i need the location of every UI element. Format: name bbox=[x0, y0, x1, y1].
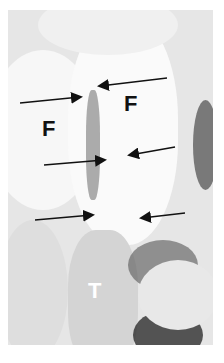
label-f-left: F bbox=[42, 118, 55, 140]
arrow-4 bbox=[130, 147, 175, 155]
label-t: T bbox=[88, 280, 101, 302]
anatomical-photo: F F T bbox=[0, 0, 224, 363]
arrow-6 bbox=[142, 213, 185, 218]
arrow-5 bbox=[35, 215, 92, 220]
arrow-3 bbox=[44, 160, 104, 165]
arrows-layer bbox=[0, 0, 224, 363]
arrow-1 bbox=[100, 78, 167, 86]
arrow-2 bbox=[20, 97, 80, 103]
label-f-right: F bbox=[124, 93, 137, 115]
